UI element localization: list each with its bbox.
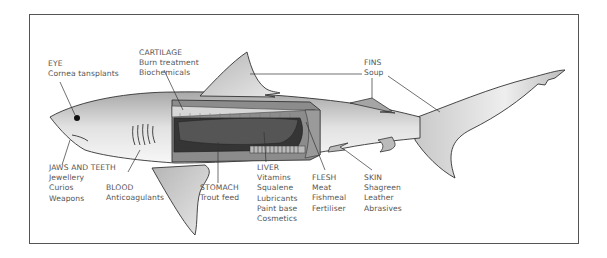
dorsal-fin <box>200 52 280 97</box>
shark-illustration <box>0 0 607 258</box>
label-eye: EYE Cornea tansplants <box>48 59 119 79</box>
anal-fin <box>378 137 395 152</box>
label-cartilage: CARTILAGE Burn treatment Biochemicals <box>139 48 199 79</box>
label-fins: FINS Soup <box>364 58 384 78</box>
label-flesh: FLESH Meat Fishmeal Fertiliser <box>312 173 346 214</box>
eye <box>74 115 80 121</box>
liver-lobe <box>178 118 298 144</box>
tail-fin <box>415 70 565 178</box>
label-skin: SKIN Shagreen Leather Abrasives <box>364 173 402 214</box>
label-liver: LIVER Vitamins Squalene Lubricants Paint… <box>257 163 298 224</box>
label-blood: BLOOD Anticoagulants <box>106 183 164 203</box>
label-stomach: STOMACH Trout feed <box>200 183 239 203</box>
